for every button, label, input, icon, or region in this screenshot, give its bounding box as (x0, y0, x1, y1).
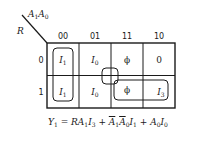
col-variables-label: A1A0 (27, 9, 49, 20)
cell-r0-c00: I1 (58, 55, 66, 66)
cell-r0-c01: I0 (90, 55, 99, 66)
row-header: 1 (38, 88, 43, 97)
kmap-grid (47, 43, 175, 108)
cell-r0-c11: ϕ (124, 55, 130, 65)
boolean-equation: Y1 = RA1I3 + A1A0I1 + A0I0 (48, 117, 168, 127)
row-variable-label: R (16, 26, 24, 36)
cell-r1-c00: I1 (58, 87, 66, 98)
col-header: 00 (58, 32, 68, 41)
col-header: 01 (90, 32, 100, 41)
cell-r1-c11: ϕ (124, 85, 130, 95)
cell-r1-c10: I3 (156, 87, 165, 98)
col-header: 11 (122, 32, 132, 41)
cell-r1-c01: I0 (90, 87, 99, 98)
row-header: 0 (38, 56, 43, 65)
col-header: 10 (154, 32, 164, 41)
cell-r0-c10: 0 (156, 55, 162, 65)
